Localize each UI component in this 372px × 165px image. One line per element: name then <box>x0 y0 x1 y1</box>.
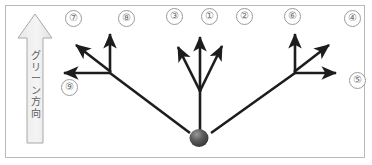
green-label-char-0: グ <box>27 50 44 62</box>
left-tail-line <box>110 73 190 133</box>
marker-7: ⑦ <box>65 10 82 27</box>
marker-1: ① <box>201 8 218 25</box>
green-label-char-1: リ <box>27 62 44 74</box>
left-diagonal-arrow <box>76 45 111 72</box>
green-label-char-3: ン <box>27 85 44 97</box>
diagram-canvas: グ リ ー ン 方 向 ⑦ ⑧ ③ ① ② ⑥ ④ ⑨ ⑤ <box>0 0 372 165</box>
green-label-char-5: 向 <box>27 108 44 120</box>
marker-6: ⑥ <box>284 8 301 25</box>
marker-4: ④ <box>344 10 361 27</box>
right-tail-line <box>211 73 295 133</box>
green-label-char-2: ー <box>27 73 44 85</box>
marker-2: ② <box>236 8 253 25</box>
marker-9: ⑨ <box>61 79 78 96</box>
center-vector-cluster <box>178 37 222 130</box>
right-diagonal-arrow <box>294 45 329 72</box>
center-right-arrow <box>200 46 222 91</box>
golf-ball <box>190 129 209 147</box>
right-vector-cluster <box>211 34 336 133</box>
left-vector-cluster <box>64 34 190 133</box>
green-direction-label: グ リ ー ン 方 向 <box>27 50 44 119</box>
marker-5: ⑤ <box>349 72 366 89</box>
vector-field-svg <box>0 0 372 165</box>
marker-8: ⑧ <box>118 10 135 27</box>
center-left-arrow <box>178 47 200 91</box>
marker-3: ③ <box>166 8 183 25</box>
green-label-char-4: 方 <box>27 96 44 108</box>
